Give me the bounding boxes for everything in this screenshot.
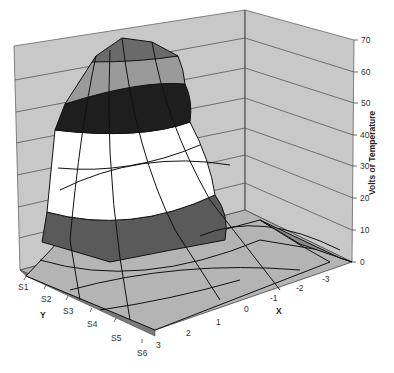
y-tick-s6: S6 xyxy=(137,348,148,358)
z-tick-60: 60 xyxy=(361,67,371,77)
z-axis-title: Volts or Temperature xyxy=(367,110,377,195)
y-tick-s2: S2 xyxy=(41,294,52,304)
z-tick-50: 50 xyxy=(361,98,371,108)
y-axis-title: Y xyxy=(40,310,46,320)
y-tick-s3: S3 xyxy=(63,306,74,316)
x-axis-title: X xyxy=(276,306,282,316)
y-tick-s4: S4 xyxy=(87,319,98,329)
z-tick-10: 10 xyxy=(360,225,370,235)
x-tick-3: 3 xyxy=(156,340,161,350)
z-axis: 0 10 20 30 40 50 60 70 Volts or Temperat… xyxy=(352,35,377,267)
x-tick-neg3: -3 xyxy=(322,274,330,284)
z-tick-70: 70 xyxy=(361,35,371,45)
z-tick-0: 0 xyxy=(360,257,365,267)
y-tick-s5: S5 xyxy=(111,333,122,343)
y-tick-s1: S1 xyxy=(18,282,29,292)
x-tick-neg2: -2 xyxy=(296,283,304,293)
x-tick-2: 2 xyxy=(186,328,191,338)
x-tick-0: 0 xyxy=(244,304,249,314)
x-tick-1: 1 xyxy=(216,317,221,327)
surface-chart: 0 10 20 30 40 50 60 70 Volts or Temperat… xyxy=(0,0,394,373)
x-tick-neg1: -1 xyxy=(270,293,278,303)
